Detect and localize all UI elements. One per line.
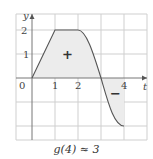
x-tick-4: 4: [121, 80, 127, 91]
x-axis-arrow-icon: [142, 76, 147, 81]
x-tick-1: 1: [52, 80, 58, 91]
caption: g(4) ≈ 3: [0, 143, 153, 156]
y-tick-2: 2: [21, 25, 27, 36]
plus-sign: +: [62, 47, 73, 62]
minus-sign: −: [110, 86, 121, 101]
x-tick-2: 2: [75, 80, 81, 91]
graph: y t 0 1 2 4 1 2 + −: [0, 0, 153, 159]
y-tick-1: 1: [23, 49, 29, 60]
y-axis-label: y: [22, 10, 29, 21]
y-axis-arrow-icon: [30, 14, 35, 19]
origin-label: 0: [19, 80, 25, 91]
